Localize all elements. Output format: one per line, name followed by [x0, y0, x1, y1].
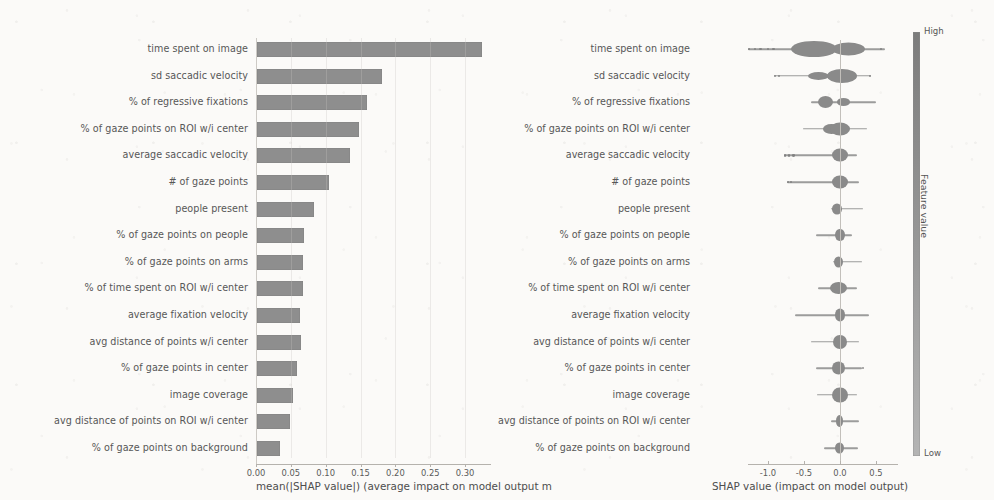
beeswarm-density-cluster — [827, 69, 857, 83]
beeswarm-distribution — [690, 302, 930, 328]
beeswarm-density-cluster — [834, 256, 843, 267]
bar-chart-feature-label: % of gaze points on ROI w/i center — [81, 118, 248, 140]
bar-chart-feature-label: # of gaze points — [168, 171, 248, 193]
beeswarm-row: average saccadic velocity — [430, 142, 994, 168]
beeswarm-row: % of time spent on ROI w/i center — [430, 275, 994, 301]
beeswarm-feature-label: % of gaze points in center — [564, 355, 690, 381]
bar-chart-bar — [257, 441, 280, 456]
bar-chart-bar — [257, 122, 359, 137]
bar-chart-bar — [257, 148, 350, 163]
beeswarm-distribution — [690, 435, 930, 461]
bar-chart-tick-mark — [256, 464, 257, 467]
beeswarm-distribution — [690, 382, 930, 408]
beeswarm-tick-mark — [768, 461, 769, 465]
bar-chart-feature-label: people present — [175, 198, 248, 220]
beeswarm-distribution — [690, 142, 930, 168]
beeswarm-row: time spent on image — [430, 36, 994, 62]
beeswarm-row: % of regressive fixations — [430, 89, 994, 115]
beeswarm-zero-reference-line — [840, 40, 841, 464]
bar-chart-feature-label: average saccadic velocity — [123, 144, 248, 166]
beeswarm-feature-label: sd saccadic velocity — [594, 63, 690, 89]
bar-chart-bar — [257, 228, 304, 243]
bar-chart-tick-label: 0.00 — [247, 468, 266, 478]
bar-chart-feature-label: % of regressive fixations — [129, 91, 248, 113]
feature-value-colorbar — [913, 32, 920, 456]
bar-chart-gridline — [291, 38, 292, 458]
bar-chart-feature-label: time spent on image — [148, 38, 248, 60]
shap-beeswarm-panel: time spent on imagesd saccadic velocity%… — [430, 24, 994, 484]
beeswarm-point-band — [787, 181, 860, 183]
beeswarm-outlier-point — [862, 367, 864, 369]
bar-chart-bar — [257, 255, 303, 270]
bar-chart-tick-label: 0.20 — [386, 468, 405, 478]
beeswarm-density-cluster — [808, 72, 829, 80]
bar-chart-row: % of regressive fixations — [0, 91, 500, 113]
figure-canvas: time spent on imagesd saccadic velocity%… — [0, 0, 994, 500]
bar-chart-row: avg distance of points w/i center — [0, 331, 500, 353]
beeswarm-distribution — [690, 275, 930, 301]
bar-chart-gridline — [326, 38, 327, 458]
bar-chart-tick-mark — [395, 464, 396, 467]
beeswarm-tick-label: 0.0 — [833, 468, 846, 478]
beeswarm-row: image coverage — [430, 382, 994, 408]
beeswarm-distribution — [690, 89, 930, 115]
beeswarm-distribution — [690, 355, 930, 381]
beeswarm-distribution — [690, 222, 930, 248]
beeswarm-tick-label: -0.5 — [796, 468, 812, 478]
beeswarm-row: % of gaze points in center — [430, 355, 994, 381]
bar-chart-row: % of gaze points on background — [0, 437, 500, 459]
bar-chart-feature-label: % of gaze points on background — [92, 437, 248, 459]
beeswarm-point-band — [795, 314, 868, 316]
colorbar-high-label: High — [924, 26, 944, 36]
bar-chart-row: # of gaze points — [0, 171, 500, 193]
beeswarm-tick-label: -1.0 — [760, 468, 776, 478]
bar-chart-feature-label: % of time spent on ROI w/i center — [85, 277, 248, 299]
bar-chart-feature-label: % of gaze points on people — [116, 224, 248, 246]
beeswarm-row: % of gaze points on background — [430, 435, 994, 461]
bar-chart-bar — [257, 175, 329, 190]
beeswarm-row: avg distance of points on ROI w/i center — [430, 408, 994, 434]
bar-chart-bar — [257, 335, 301, 350]
beeswarm-feature-label: average fixation velocity — [571, 302, 690, 328]
beeswarm-feature-label: % of gaze points on people — [560, 222, 690, 248]
beeswarm-point-band — [816, 234, 853, 236]
bar-chart-tick-label: 0.15 — [351, 468, 370, 478]
beeswarm-distribution — [690, 249, 930, 275]
beeswarm-feature-label: avg distance of points on ROI w/i center — [498, 408, 690, 434]
beeswarm-distribution — [690, 196, 930, 222]
bar-chart-tick-mark — [361, 464, 362, 467]
bar-chart-bar — [257, 281, 303, 296]
beeswarm-feature-label: % of gaze points on ROI w/i center — [524, 116, 690, 142]
beeswarm-x-axis-label: SHAP value (impact on model output) — [712, 480, 972, 492]
beeswarm-feature-label: average saccadic velocity — [566, 142, 690, 168]
bar-chart-row: % of gaze points in center — [0, 357, 500, 379]
beeswarm-density-cluster — [832, 43, 865, 56]
beeswarm-row: sd saccadic velocity — [430, 63, 994, 89]
bar-chart-row: average saccadic velocity — [0, 144, 500, 166]
beeswarm-row: avg distance of points w/i center — [430, 329, 994, 355]
beeswarm-row: % of gaze points on arms — [430, 249, 994, 275]
beeswarm-feature-label: # of gaze points — [611, 169, 690, 195]
beeswarm-tick-mark — [876, 461, 877, 465]
bar-chart-tick-label: 0.10 — [316, 468, 335, 478]
beeswarm-feature-label: avg distance of points w/i center — [533, 329, 690, 355]
beeswarm-feature-label: % of time spent on ROI w/i center — [528, 275, 690, 301]
bar-chart-feature-label: % of gaze points in center — [121, 357, 248, 379]
bar-chart-bar — [257, 308, 300, 323]
colorbar-low-label: Low — [924, 448, 941, 458]
beeswarm-row: % of gaze points on ROI w/i center — [430, 116, 994, 142]
beeswarm-feature-label: time spent on image — [591, 36, 691, 62]
bar-chart-feature-label: avg distance of points w/i center — [89, 331, 248, 353]
beeswarm-outlier-point — [869, 75, 871, 77]
beeswarm-tick-mark — [804, 461, 805, 465]
beeswarm-feature-label: % of gaze points on arms — [568, 249, 690, 275]
beeswarm-feature-label: % of gaze points on background — [535, 435, 690, 461]
beeswarm-density-cluster — [832, 362, 846, 375]
beeswarm-feature-label: people present — [618, 196, 690, 222]
bar-chart-bar — [257, 95, 367, 110]
bar-chart-feature-label: % of gaze points on arms — [125, 251, 248, 273]
bar-chart-feature-label: image coverage — [170, 384, 248, 406]
bar-chart-row: % of time spent on ROI w/i center — [0, 277, 500, 299]
bar-chart-tick-label: 0.05 — [282, 468, 301, 478]
beeswarm-row: % of gaze points on people — [430, 222, 994, 248]
